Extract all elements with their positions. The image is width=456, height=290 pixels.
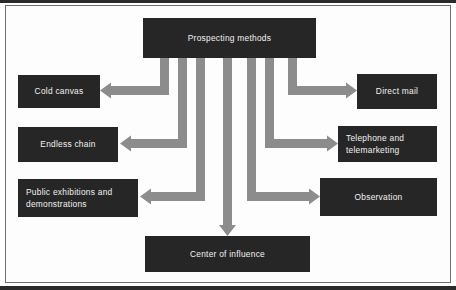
node-cold-canvas[interactable]: Cold canvas xyxy=(18,75,100,108)
node-center-of-influence[interactable]: Center of influence xyxy=(145,236,310,272)
node-label: Telephone and telemarketing xyxy=(346,132,404,156)
node-label: Cold canvas xyxy=(35,85,84,97)
node-label: Endless chain xyxy=(40,138,95,150)
node-telephone-and-telemarketing[interactable]: Telephone and telemarketing xyxy=(338,126,437,162)
arrow-to-observation xyxy=(247,58,320,205)
arrow-to-center-of-influence xyxy=(219,58,236,236)
node-label: Direct mail xyxy=(376,85,418,97)
arrow-to-endless-chain xyxy=(120,58,187,152)
node-endless-chain[interactable]: Endless chain xyxy=(18,127,118,162)
node-observation[interactable]: Observation xyxy=(320,178,437,216)
node-label: Observation xyxy=(355,191,403,203)
node-label: Center of influence xyxy=(190,248,265,260)
arrow-to-telephone xyxy=(265,58,338,152)
diagram-screenshot: Prospecting methodsCold canvasEndless ch… xyxy=(0,0,456,290)
arrow-to-public-exhibitions xyxy=(140,58,205,205)
node-label: Public exhibitions and demonstrations xyxy=(26,186,113,210)
arrow-to-direct-mail xyxy=(288,58,357,99)
node-prospecting-methods[interactable]: Prospecting methods xyxy=(143,18,316,58)
node-direct-mail[interactable]: Direct mail xyxy=(357,74,437,109)
arrow-to-cold-canvas xyxy=(100,58,169,99)
node-label: Prospecting methods xyxy=(188,32,271,44)
node-public-exhibitions-and-demonstrations[interactable]: Public exhibitions and demonstrations xyxy=(18,179,138,217)
